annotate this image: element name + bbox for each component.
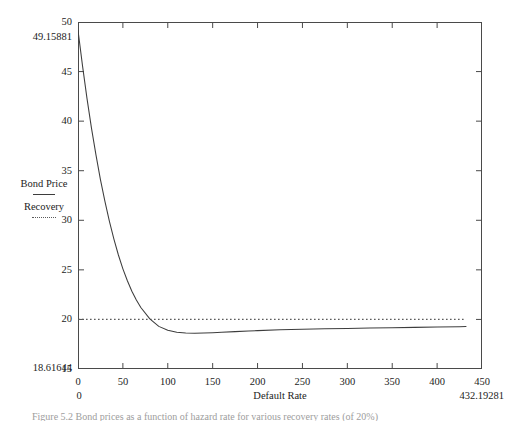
legend-entry-bond-price: Bond Price — [10, 178, 78, 197]
series-line-bond-price — [78, 30, 466, 333]
x-axis-tick-label: 50 — [103, 376, 143, 387]
legend-label-recovery: Recovery — [10, 201, 78, 213]
legend-label-bond-price: Bond Price — [10, 178, 78, 190]
figure-caption: Figure 5.2 Bond prices as a function of … — [32, 412, 378, 421]
x-axis-tick-label: 100 — [148, 376, 188, 387]
y-axis-min-annotation: 18.61644 — [8, 362, 72, 373]
x-axis-tick-label: 450 — [462, 376, 502, 387]
plot-canvas — [78, 22, 482, 369]
legend-swatch-solid-line — [33, 192, 55, 197]
y-axis-tick-label: 45 — [32, 66, 72, 77]
x-axis-tick-label: 400 — [417, 376, 457, 387]
chart-legend: Bond Price Recovery — [10, 178, 78, 224]
series-layer — [78, 30, 466, 333]
y-axis-tick-label: 25 — [32, 264, 72, 275]
x-axis-tick-label: 300 — [327, 376, 367, 387]
y-axis-tick-label: 50 — [32, 16, 72, 27]
legend-entry-recovery: Recovery — [10, 201, 78, 220]
x-axis-tick-label: 250 — [282, 376, 322, 387]
x-axis-tick-label: 200 — [238, 376, 278, 387]
x-axis-tick-label: 150 — [193, 376, 233, 387]
y-axis-tick-label: 35 — [32, 165, 72, 176]
y-axis-max-annotation: 49.15881 — [14, 31, 72, 42]
y-axis-tick-label: 20 — [32, 313, 72, 324]
x-axis-tick-label: 350 — [372, 376, 412, 387]
figure-container: 5045403530252015 05010015020025030035040… — [0, 0, 513, 421]
tick-marks — [78, 22, 482, 369]
legend-swatch-dotted-line — [32, 215, 56, 220]
x-axis-min-annotation: 0 — [64, 390, 94, 401]
x-axis-title: Default Rate — [200, 390, 360, 401]
figure-caption-clip: Figure 5.2 Bond prices as a function of … — [0, 412, 513, 421]
y-axis-tick-label: 40 — [32, 115, 72, 126]
x-axis-tick-label: 0 — [58, 376, 98, 387]
x-axis-max-annotation: 432.19281 — [424, 390, 504, 401]
